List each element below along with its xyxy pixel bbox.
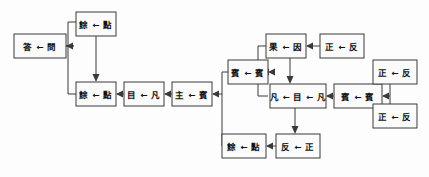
node-label: 正 ← 反 — [325, 42, 358, 52]
arrowhead-host-to-eye — [164, 91, 171, 98]
bus-left-vertical — [68, 22, 76, 94]
node-label: 賓 ← 賓 — [230, 68, 264, 78]
node-upright-reverse-right-a[interactable]: 正 ← 反 — [373, 60, 417, 84]
node-host-guest[interactable]: 主 ← 賓 — [172, 82, 212, 106]
node-label: 主 ← 賓 — [175, 90, 208, 100]
node-upright-reverse-right-b[interactable]: 正 ← 反 — [373, 104, 417, 128]
flow-diagram: 答 ← 問 餘 ← 點 餘 ← 點 目 ← 凡 主 ← 賓 賓 ← 賓 — [0, 0, 429, 177]
node-label: 餘 ← 點 — [226, 142, 260, 152]
arrowhead-eye-to-remainder — [116, 91, 123, 98]
node-label: 餘 ← 點 — [78, 20, 112, 30]
arrowhead-ordinary-to-remainder-bot — [292, 126, 299, 134]
node-label: 正 ← 反 — [378, 112, 411, 122]
node-label: 正 ← 反 — [378, 68, 411, 78]
node-label: 目 ← 凡 — [127, 90, 160, 100]
arrowhead-guest-right-to-ordinary — [326, 93, 333, 100]
diagram-canvas: 答 ← 問 餘 ← 點 餘 ← 點 目 ← 凡 主 ← 賓 賓 ← 賓 — [0, 0, 429, 177]
arrowhead-upright-to-effect — [306, 43, 313, 50]
arrowhead-bus-to-host — [212, 91, 219, 98]
node-layer: 答 ← 問 餘 ← 點 餘 ← 點 目 ← 凡 主 ← 賓 賓 ← 賓 — [14, 12, 417, 158]
node-remainder-point-top[interactable]: 餘 ← 點 — [76, 12, 116, 36]
arrowhead-bus-right-to-guest-right — [382, 93, 389, 100]
node-remainder-point-mid[interactable]: 餘 ← 點 — [76, 82, 116, 106]
node-eye-ordinary[interactable]: 目 ← 凡 — [124, 82, 164, 106]
arrowhead-reverse-to-remainder-bot — [266, 143, 273, 150]
node-label: 反 ← 正 — [281, 142, 314, 152]
node-label: 答 ← 問 — [22, 42, 56, 52]
node-ordinary-eye-ordinary[interactable]: 凡 ← 目 ← 凡 — [270, 84, 327, 108]
node-label: 賓 ← 賓 — [340, 92, 374, 102]
arrowhead-remainder-mid — [93, 74, 100, 82]
node-label: 凡 ← 目 ← 凡 — [270, 92, 327, 102]
node-label: 果 ← 因 — [268, 42, 302, 52]
node-guest-guest-left[interactable]: 賓 ← 賓 — [228, 60, 268, 84]
arrowhead-to-answer — [66, 43, 73, 50]
node-effect-cause[interactable]: 果 ← 因 — [266, 34, 306, 58]
arrowhead-effect-to-ordinary — [287, 76, 294, 84]
node-reverse-upright[interactable]: 反 ← 正 — [276, 134, 320, 158]
node-label: 餘 ← 點 — [78, 90, 112, 100]
node-answer-question[interactable]: 答 ← 問 — [14, 34, 66, 58]
node-upright-reverse-top[interactable]: 正 ← 反 — [320, 34, 364, 58]
arrowhead-guest-left-feed — [268, 69, 275, 76]
node-remainder-point-bottom[interactable]: 餘 ← 點 — [222, 134, 266, 158]
